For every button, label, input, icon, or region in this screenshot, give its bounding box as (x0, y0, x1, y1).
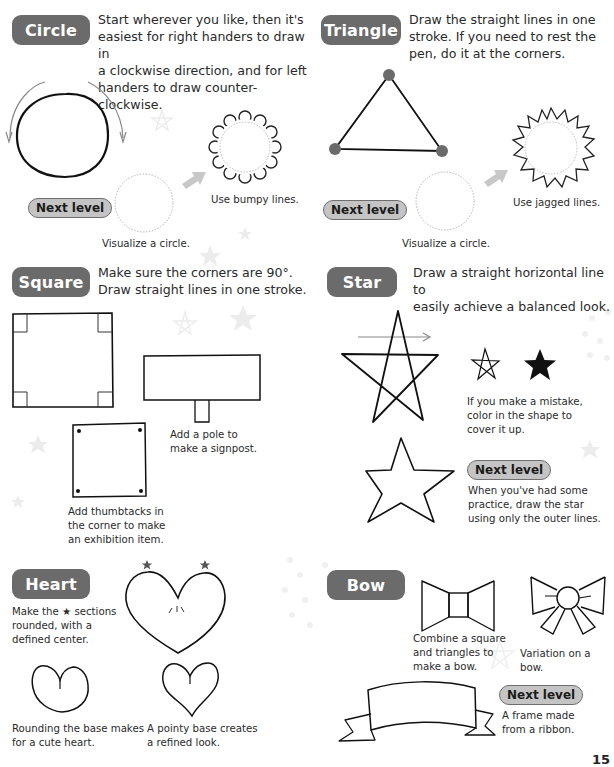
star-section-header: Star (327, 267, 397, 297)
corner-dot-icon (436, 145, 448, 157)
thumbtack-icon (139, 489, 143, 493)
cute-heart-drawing (30, 663, 92, 715)
heart-title: Heart (25, 575, 77, 594)
bow-ribbon-caption: A frame made from a ribbon. (502, 709, 575, 737)
filled-star-icon (522, 348, 558, 382)
thumbtack-icon (77, 429, 81, 433)
corner-dot-icon (329, 143, 341, 155)
square-title: Square (18, 273, 83, 292)
bow-next-level-badge: Next level (499, 685, 583, 705)
exhibition-board-drawing (70, 422, 150, 502)
corner-dot-icon (383, 69, 395, 81)
refined-heart-caption: A pointy base creates a refined look. (147, 722, 258, 750)
triangle-intro-text: Draw the straight lines in one stroke. I… (409, 11, 614, 62)
circle-next-level-badge: Next level (28, 198, 112, 218)
circle-title: Circle (25, 21, 77, 40)
square-intro-text: Make sure the corners are 90°. Draw stra… (98, 264, 308, 298)
square-drawing (10, 310, 115, 420)
cute-heart-caption: Rounding the base makes for a cute heart… (12, 722, 144, 750)
star-mistake-caption: If you make a mistake, color in the shap… (467, 395, 583, 437)
thumbtacks-caption: Add thumbtacks in the corner to make an … (68, 505, 165, 547)
arrow-right-icon (180, 168, 208, 190)
circle-section-header: Circle (12, 15, 90, 45)
square-section-header: Square (12, 267, 90, 297)
circle-visualize-caption: Visualize a circle. (102, 237, 190, 251)
star-title: Star (343, 273, 382, 292)
page-number: 15 (592, 752, 610, 767)
star-outer-caption: When you've had some practice, draw the … (468, 484, 601, 526)
triangle-visualize-caption: Visualize a circle. (402, 237, 490, 251)
visualize-circle-guide (414, 170, 476, 232)
triangle-next-level-badge: Next level (323, 200, 407, 220)
variation-bow-drawing (527, 572, 609, 642)
rounded-section-star-icon (200, 560, 210, 569)
simple-bow-drawing (418, 578, 498, 634)
bow-variation-caption: Variation on a bow. (520, 647, 614, 675)
thumbtack-icon (76, 489, 80, 493)
thumbtack-icon (138, 428, 142, 432)
bumpy-circle-drawing (210, 112, 280, 182)
bow-section-header: Bow (327, 570, 405, 600)
visualize-circle-guide (113, 172, 175, 234)
refined-heart-drawing (160, 660, 222, 718)
star-one-stroke-drawing (338, 308, 458, 423)
signpost-drawing (142, 354, 267, 429)
heart-main-drawing (122, 558, 232, 658)
bow-title: Bow (347, 576, 386, 595)
triangle-jagged-caption: Use jagged lines. (513, 196, 600, 210)
counterclockwise-arrow-icon (88, 82, 123, 138)
heart-intro-text: Make the ★ sections rounded, with a defi… (12, 605, 116, 647)
triangle-section-header: Triangle (321, 15, 401, 45)
rounded-section-star-icon (142, 560, 152, 569)
star-next-level-badge: Next level (467, 460, 551, 480)
star-outer-lines-drawing (364, 436, 459, 526)
circle-bumpy-caption: Use bumpy lines. (211, 193, 299, 207)
ribbon-frame-drawing (333, 680, 488, 750)
arrow-right-icon (482, 166, 510, 188)
triangle-title: Triangle (324, 21, 398, 40)
signpost-caption: Add a pole to make a signpost. (170, 428, 257, 456)
triangle-drawing (325, 65, 455, 175)
small-star-outline-icon (470, 347, 502, 381)
heart-section-header: Heart (12, 569, 90, 599)
bow-combine-caption: Combine a square and triangles to make a… (413, 632, 506, 674)
jagged-circle-drawing (509, 106, 593, 190)
